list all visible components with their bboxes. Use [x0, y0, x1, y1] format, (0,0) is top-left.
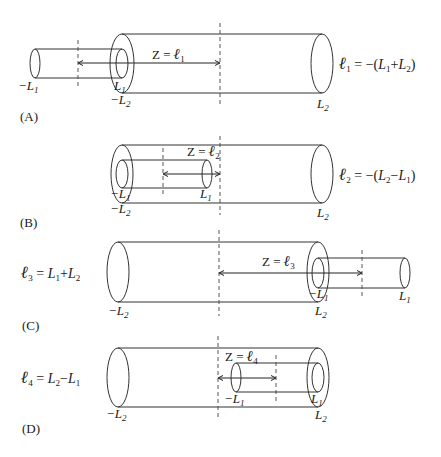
displacement-arrow	[218, 376, 276, 381]
z-label: Z = ℓ2	[187, 143, 220, 161]
panel-a: Z = ℓ1 −L1 L1 −L2 L2 ℓ1 = −(L1+L2) (A)	[18, 23, 416, 124]
label-neg-l2: −L2	[110, 92, 131, 109]
displacement-arrow	[78, 61, 220, 66]
label-neg-l2: −L2	[110, 201, 131, 218]
label-l2: L2	[314, 303, 327, 320]
formula-l4: ℓ4 = L2−L1	[21, 368, 80, 388]
panel-c: Z = ℓ3 −L1 L1 −L2 L2 ℓ3 = L1+L2 (C)	[21, 230, 411, 333]
formula-l2: ℓ2 = −(L2−L1)	[339, 165, 416, 185]
panel-label-b: (B)	[20, 215, 37, 230]
label-neg-l2: −L2	[106, 406, 127, 423]
formula-l1: ℓ1 = −(L1+L2)	[339, 54, 416, 74]
z-label: Z = ℓ4	[225, 348, 258, 366]
diagram-canvas: Z = ℓ1 −L1 L1 −L2 L2 ℓ1 = −(L1+L2) (A) Z…	[0, 0, 441, 457]
label-neg-l1: −L1	[308, 286, 329, 303]
outer-cylinder	[111, 145, 333, 203]
panel-b: Z = ℓ2 −L1 L1 −L2 L2 ℓ2 = −(L2−L1) (B)	[20, 136, 416, 230]
z-label: Z = ℓ3	[262, 253, 295, 271]
outer-cylinder	[107, 242, 329, 302]
label-neg-l1: −L1	[224, 391, 245, 408]
panel-label-d: (D)	[22, 421, 40, 436]
label-l1: L1	[310, 391, 323, 408]
displacement-arrow	[163, 172, 220, 177]
label-neg-l1: −L1	[18, 78, 39, 95]
label-l2: L2	[316, 205, 329, 222]
displacement-arrow	[219, 271, 362, 276]
formula-l3: ℓ3 = L1+L2	[21, 263, 80, 283]
panel-label-a: (A)	[20, 109, 38, 124]
z-label: Z = ℓ1	[152, 46, 185, 64]
label-l1: L1	[398, 288, 411, 305]
label-neg-l2: −L2	[108, 303, 129, 320]
label-l1: L1	[199, 186, 212, 203]
panel-d: Z = ℓ4 −L1 L1 −L2 L2 ℓ4 = L2−L1 (D)	[21, 336, 329, 436]
label-l2: L2	[316, 96, 329, 113]
panel-label-c: (C)	[22, 318, 39, 333]
label-l2: L2	[314, 407, 327, 424]
